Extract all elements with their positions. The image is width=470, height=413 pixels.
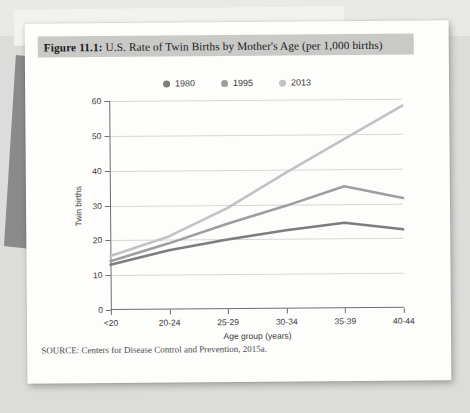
- legend-label: 2013: [291, 77, 311, 87]
- y-axis-tick-label: 20: [93, 235, 103, 245]
- y-axis-tick-label: 40: [92, 166, 102, 176]
- y-axis-label: Twin births: [73, 185, 83, 226]
- line-series-1980: [110, 222, 403, 264]
- x-axis-tick: [345, 308, 346, 313]
- x-axis-tick-label: 30-34: [276, 317, 298, 327]
- x-axis-tick: [287, 309, 288, 314]
- y-axis-tick: [104, 101, 109, 102]
- y-axis-tick-label: 0: [98, 305, 103, 315]
- y-axis-tick-label: 10: [93, 270, 103, 280]
- legend-dot-icon: [163, 80, 170, 87]
- legend-label: 1980: [175, 78, 195, 88]
- page-content: Figure 11.1: U.S. Rate of Twin Births by…: [25, 20, 452, 383]
- legend-dot-icon: [221, 80, 228, 87]
- y-axis-tick: [106, 275, 111, 276]
- legend-item-1995: 1995: [221, 78, 253, 88]
- y-axis-tick-label: 60: [92, 96, 102, 106]
- legend-item-1980: 1980: [163, 78, 195, 88]
- plot-area: Twin births Age group (years) 0102030405…: [109, 99, 404, 310]
- legend-item-2013: 2013: [279, 77, 311, 87]
- y-axis-tick: [105, 240, 110, 241]
- textbook-page: Figure 11.1: U.S. Rate of Twin Births by…: [25, 20, 452, 383]
- legend-label: 1995: [233, 78, 253, 88]
- x-axis-tick-label: 20-24: [159, 317, 181, 327]
- y-axis-tick: [104, 136, 109, 137]
- x-axis-tick: [169, 310, 170, 315]
- chart-legend: 198019952013: [25, 76, 449, 89]
- figure-title-text: U.S. Rate of Twin Births by Mother's Age…: [105, 38, 382, 52]
- figure-title: Figure 11.1: U.S. Rate of Twin Births by…: [44, 38, 383, 53]
- x-axis-tick: [111, 310, 112, 315]
- y-axis-tick: [105, 171, 110, 172]
- chart-lines: [109, 99, 404, 310]
- figure-title-banner: Figure 11.1: U.S. Rate of Twin Births by…: [38, 34, 414, 58]
- legend-dot-icon: [279, 79, 286, 86]
- line-series-2013: [109, 106, 403, 256]
- x-axis-tick: [228, 309, 229, 314]
- x-axis-tick-label: 40-44: [393, 316, 415, 326]
- source-note: SOURCE: Centers for Disease Control and …: [41, 344, 267, 356]
- x-axis-tick: [404, 308, 405, 313]
- x-axis-tick-label: 35-39: [334, 316, 356, 326]
- x-axis-label: Age group (years): [223, 331, 291, 342]
- y-axis-tick: [105, 206, 110, 207]
- x-axis-tick-label: <20: [104, 318, 118, 328]
- x-axis-tick-label: 25-29: [217, 317, 239, 327]
- y-axis-tick-label: 30: [93, 201, 103, 211]
- figure-number: Figure 11.1:: [44, 41, 103, 53]
- y-axis-tick-label: 50: [92, 131, 102, 141]
